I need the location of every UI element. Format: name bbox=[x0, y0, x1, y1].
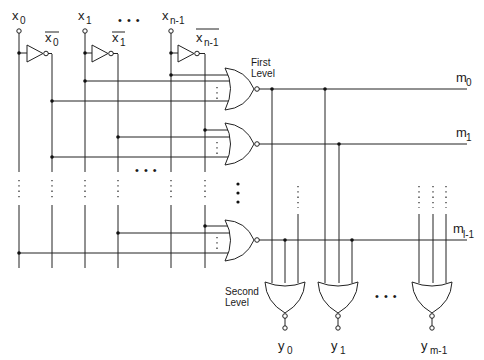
first-level-label: First Level bbox=[251, 57, 275, 79]
svg-text:1: 1 bbox=[86, 15, 92, 26]
input-label-x0-bar: x 0 bbox=[45, 30, 59, 48]
svg-text:0: 0 bbox=[287, 345, 293, 356]
input-ellipsis: • • • bbox=[118, 14, 141, 26]
input-terminal-x1 bbox=[83, 29, 87, 33]
svg-text:n-1: n-1 bbox=[204, 37, 219, 48]
pla-diagram: x 0 x 0 x 1 x 1 • • • x n-1 x n-1 bbox=[0, 0, 484, 360]
input-label-x1-bar: x 1 bbox=[112, 30, 126, 48]
output-terminal-y1 bbox=[336, 326, 340, 330]
svg-text:1: 1 bbox=[466, 132, 472, 143]
first-level-nor-gate-0 bbox=[50, 68, 259, 110]
svg-text:y: y bbox=[331, 338, 338, 353]
svg-text:m-1: m-1 bbox=[430, 345, 448, 356]
first-level-nor-gate-1 bbox=[50, 123, 259, 165]
output-terminal-ym-1 bbox=[430, 326, 434, 330]
first-level-nor-gate-l-1 bbox=[17, 220, 259, 261]
svg-text:0: 0 bbox=[20, 15, 26, 26]
middle-ellipsis: • • • bbox=[135, 164, 158, 176]
output-label-y0: y 0 bbox=[278, 338, 293, 356]
input-label-xn-1-bar: x n-1 bbox=[196, 29, 219, 48]
svg-text:y: y bbox=[278, 338, 285, 353]
output-label-y1: y 1 bbox=[331, 338, 346, 356]
svg-text:y: y bbox=[421, 338, 428, 353]
minterm-label-m0: m 0 bbox=[456, 70, 472, 88]
svg-text:Second: Second bbox=[225, 286, 259, 297]
svg-text:x: x bbox=[162, 8, 169, 23]
svg-text:x: x bbox=[12, 8, 19, 23]
minterm-label-ml-1: m l-1 bbox=[453, 221, 475, 240]
gate-column-ellipsis bbox=[236, 182, 239, 203]
minterm-lines bbox=[259, 89, 467, 240]
second-level-wires bbox=[270, 87, 446, 283]
svg-text:Level: Level bbox=[251, 68, 275, 79]
output-ellipsis: • • • bbox=[375, 290, 398, 302]
input-label-xn-1: x n-1 bbox=[162, 8, 185, 26]
input-terminal-x0 bbox=[17, 29, 21, 33]
svg-text:x: x bbox=[196, 30, 203, 45]
svg-text:l-1: l-1 bbox=[463, 229, 475, 240]
svg-text:1: 1 bbox=[120, 37, 126, 48]
svg-text:1: 1 bbox=[340, 345, 346, 356]
svg-text:0: 0 bbox=[466, 77, 472, 88]
input-label-x0: x 0 bbox=[12, 8, 26, 26]
second-level-nor-gate-ym-1 bbox=[412, 282, 452, 330]
input-label-x1: x 1 bbox=[78, 8, 92, 26]
input-terminal-xn-1 bbox=[169, 29, 173, 33]
inverter-xn-1 bbox=[169, 45, 205, 62]
second-level-nor-gate-y0 bbox=[265, 282, 305, 330]
minterm-label-m1: m 1 bbox=[456, 125, 472, 143]
second-level-label: Second Level bbox=[225, 286, 259, 308]
svg-text:First: First bbox=[251, 57, 271, 68]
svg-text:n-1: n-1 bbox=[170, 15, 185, 26]
svg-text:Level: Level bbox=[225, 297, 249, 308]
inverter-x0 bbox=[17, 45, 52, 62]
output-label-ym-1: y m-1 bbox=[421, 338, 448, 356]
second-level-nor-gate-y1 bbox=[318, 282, 358, 330]
output-terminal-y0 bbox=[283, 326, 287, 330]
svg-text:x: x bbox=[78, 8, 85, 23]
inverter-x1 bbox=[83, 45, 118, 62]
svg-text:0: 0 bbox=[53, 37, 59, 48]
